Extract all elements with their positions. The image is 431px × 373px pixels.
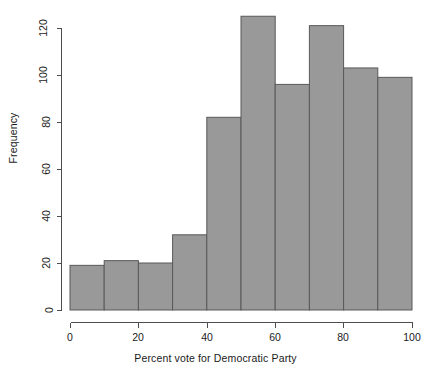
y-tick-label-text: 60 [40,163,52,175]
x-tick-label: 80 [337,331,349,343]
y-tick-label: 80 [16,116,52,128]
y-tick-label-text: 40 [40,210,52,222]
x-tick-label: 0 [67,331,73,343]
x-tick-label: 100 [403,331,421,343]
histogram-bar [309,26,343,310]
y-axis [57,29,62,311]
y-tick-label: 20 [16,257,52,269]
x-tick-label: 40 [201,331,213,343]
y-tick-label: 100 [16,69,52,81]
x-axis [71,323,413,328]
histogram-bar [344,68,378,310]
histogram-bar [378,77,412,310]
histogram-bar [70,265,104,310]
plot-canvas [0,0,431,373]
y-axis-title: Frequency [7,88,19,188]
histogram-figure: 0 20 40 60 80 100 0 20 40 60 80 100 120 … [0,0,431,373]
histogram-bar [275,84,309,310]
x-axis-title: Percent vote for Democratic Party [0,352,431,364]
histogram-bar [241,16,275,310]
y-tick-label-text: 100 [37,66,49,84]
histogram-bar [173,235,207,310]
y-tick-label-text: 120 [37,19,49,37]
y-tick-label: 0 [16,304,52,316]
y-tick-label: 120 [16,22,52,34]
x-tick-label: 20 [132,331,144,343]
x-tick-label: 60 [269,331,281,343]
y-tick-label: 40 [16,210,52,222]
y-tick-label-text: 20 [40,257,52,269]
y-tick-label-text: 0 [43,307,55,313]
y-tick-label-text: 80 [40,116,52,128]
histogram-bar [104,261,138,310]
histogram-bars [70,16,412,310]
histogram-bar [207,117,241,310]
y-tick-label: 60 [16,163,52,175]
histogram-bar [138,263,172,310]
